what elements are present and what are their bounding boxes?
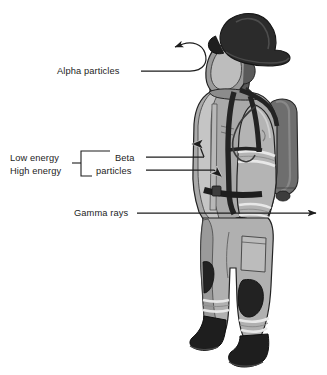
- label-gamma-rays: Gamma rays: [74, 208, 128, 219]
- diagram-canvas: Alpha particles Low energy High energy B…: [0, 0, 327, 375]
- label-alpha-particles: Alpha particles: [57, 66, 119, 77]
- radiation-penetration-illustration: [0, 0, 327, 375]
- label-high-energy: High energy: [10, 166, 61, 177]
- label-beta-particles-line2: particles: [96, 166, 132, 177]
- label-beta-particles-line1: Beta: [115, 153, 135, 164]
- firefighter-figure: [190, 13, 298, 367]
- alpha-particles-leader: [141, 43, 206, 71]
- label-low-energy: Low energy: [10, 153, 59, 164]
